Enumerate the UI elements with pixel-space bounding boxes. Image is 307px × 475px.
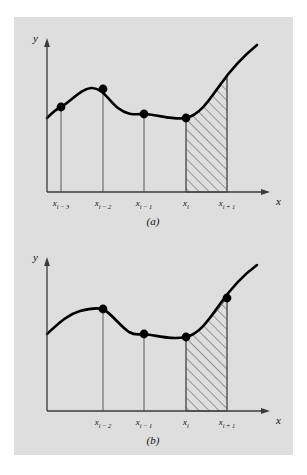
y-axis-label-b: y [32,251,38,263]
tick-label-xi-1: xi − 1 [135,198,153,210]
y-axis-label-a: y [32,32,38,44]
tick-labels-a: xi − 3 xi − 2 xi − 1 xi xi + 1 [52,198,236,210]
tick-label-xi+1: xi + 1 [218,417,236,429]
x-axis-arrow-a [261,189,270,195]
tick-label-xi-1: xi − 1 [135,417,153,429]
node-dot [223,294,232,303]
node-dot [99,305,108,314]
x-axis-label-a: x [275,195,281,207]
panel-b: y x xi − 2 xi − 1 xi xi + 1 [14,236,293,455]
panel-caption-b: (b) [147,434,160,447]
figure-plate: y x xi − 3 xi − 2 xi − 1 xi [14,17,293,455]
shaded-area-b [186,298,227,411]
tick-label-xi-3: xi − 3 [52,198,70,210]
tick-labels-b: xi − 2 xi − 1 xi xi + 1 [94,417,236,429]
figure-root: y x xi − 3 xi − 2 xi − 1 xi [0,0,307,475]
node-dot [99,85,108,94]
y-axis-arrow-b [44,257,50,266]
x-axis-label-b: x [275,414,281,426]
node-dot [182,333,191,342]
x-axis-arrow-b [261,408,270,414]
shaded-area-a [186,77,227,192]
y-axis-arrow-a [44,38,50,47]
tick-label-xi-2: xi − 2 [94,417,112,429]
tick-label-xi: xi [182,198,189,210]
node-dot [140,330,149,339]
node-dot [182,114,191,123]
panel-a: y x xi − 3 xi − 2 xi − 1 xi [14,17,293,236]
panel-caption-a: (a) [147,215,160,228]
node-dot [57,103,66,112]
node-dot [140,110,149,119]
tick-label-xi: xi [182,417,189,429]
tick-label-xi-2: xi − 2 [94,198,112,210]
tick-label-xi+1: xi + 1 [218,198,236,210]
